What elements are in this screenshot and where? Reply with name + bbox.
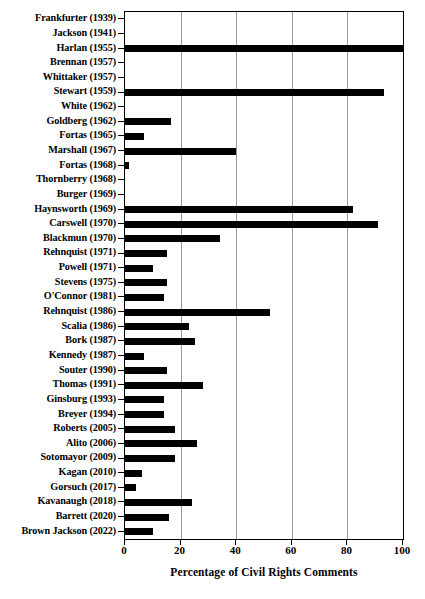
category-label: Blackmun (1970) [0, 231, 120, 246]
bar [125, 470, 142, 477]
category-label: Stewart (1959) [0, 84, 120, 99]
category-label: Gorsuch (2017) [0, 480, 120, 495]
bar-slot [125, 276, 403, 291]
bar [125, 528, 153, 535]
bar [125, 411, 164, 418]
bar-slot [125, 422, 403, 437]
category-label: Thomas (1991) [0, 377, 120, 392]
bar-slot [125, 510, 403, 525]
bar-slot [125, 56, 403, 71]
bar-slot [125, 71, 403, 86]
bar-slot [125, 334, 403, 349]
category-label: Stevens (1975) [0, 275, 120, 290]
bar-slot [125, 466, 403, 481]
bar [125, 353, 144, 360]
x-tick-label: 80 [341, 545, 352, 556]
bar [125, 440, 197, 447]
bar-slot [125, 378, 403, 393]
bar [125, 118, 171, 125]
bar-slot [125, 41, 403, 56]
bar [125, 455, 175, 462]
bar [125, 148, 236, 155]
bar-slot [125, 173, 403, 188]
bar [125, 162, 129, 169]
bar [125, 499, 192, 506]
category-label: Roberts (2005) [0, 421, 120, 436]
category-label: Haynsworth (1969) [0, 201, 120, 216]
bar-slot [125, 232, 403, 247]
category-label: Bork (1987) [0, 333, 120, 348]
category-label: Ginsburg (1993) [0, 392, 120, 407]
category-label: Kavanaugh (2018) [0, 494, 120, 509]
category-label: Harlan (1955) [0, 40, 120, 55]
category-label: Kagan (2010) [0, 465, 120, 480]
category-label: O'Connor (1981) [0, 289, 120, 304]
bar-slot [125, 261, 403, 276]
bar-slot [125, 158, 403, 173]
bar-slot [125, 407, 403, 422]
category-label: Rehnquist (1971) [0, 245, 120, 260]
category-label: Scalia (1986) [0, 318, 120, 333]
bar [125, 294, 164, 301]
bar [125, 484, 136, 491]
x-tick-label: 20 [174, 545, 185, 556]
bar-slot [125, 129, 403, 144]
bar [125, 514, 169, 521]
bar [125, 338, 195, 345]
bar [125, 426, 175, 433]
category-label: Jackson (1941) [0, 26, 120, 41]
bar [125, 250, 167, 257]
category-label: Rehnquist (1986) [0, 304, 120, 319]
bar [125, 45, 403, 52]
bar [125, 367, 167, 374]
bar-slot [125, 393, 403, 408]
bar [125, 382, 203, 389]
bar-slot [125, 188, 403, 203]
bar [125, 309, 270, 316]
category-axis-labels: Frankfurter (1939)Jackson (1941)Harlan (… [0, 11, 120, 538]
bar [125, 221, 378, 228]
bar-slot [125, 524, 403, 539]
category-label: Barrett (2020) [0, 509, 120, 524]
bar-slot [125, 217, 403, 232]
x-tick-label: 0 [121, 545, 127, 556]
category-label: White (1962) [0, 99, 120, 114]
category-label: Breyer (1994) [0, 406, 120, 421]
x-tick-label: 100 [394, 545, 411, 556]
category-label: Souter (1990) [0, 362, 120, 377]
bar-slot [125, 85, 403, 100]
bar [125, 323, 189, 330]
bar-slot [125, 144, 403, 159]
category-label: Sotomayor (2009) [0, 450, 120, 465]
bar-slot [125, 305, 403, 320]
plot-area [124, 11, 404, 540]
category-label: Kennedy (1987) [0, 348, 120, 363]
bars-layer [125, 12, 403, 539]
x-axis-tick-labels: 020406080100 [124, 545, 404, 561]
bar [125, 133, 144, 140]
bar-slot [125, 363, 403, 378]
category-label: Brennan (1957) [0, 55, 120, 70]
bar [125, 206, 353, 213]
category-label: Powell (1971) [0, 260, 120, 275]
bar-slot [125, 451, 403, 466]
x-tick-label: 40 [230, 545, 241, 556]
bar-slot [125, 202, 403, 217]
bar-slot [125, 495, 403, 510]
category-label: Fortas (1965) [0, 128, 120, 143]
category-label: Carswell (1970) [0, 216, 120, 231]
bar-slot [125, 319, 403, 334]
category-label: Alito (2006) [0, 436, 120, 451]
bar-slot [125, 349, 403, 364]
x-axis-title: Percentage of Civil Rights Comments [124, 566, 404, 578]
bar-slot [125, 437, 403, 452]
category-label: Frankfurter (1939) [0, 11, 120, 26]
bar-slot [125, 100, 403, 115]
category-label: Goldberg (1962) [0, 113, 120, 128]
bar [125, 265, 153, 272]
civil-rights-comments-bar-chart: Frankfurter (1939)Jackson (1941)Harlan (… [0, 0, 425, 599]
bar [125, 89, 384, 96]
category-label: Marshall (1967) [0, 143, 120, 158]
bar-slot [125, 114, 403, 129]
category-label: Fortas (1968) [0, 157, 120, 172]
